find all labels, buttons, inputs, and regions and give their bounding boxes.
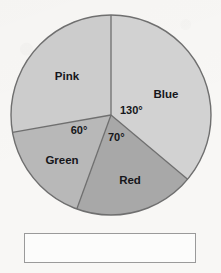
worksheet-page: Pink Blue Green Red 130° 70° 60° (0, 0, 221, 273)
pie-label-red: Red (119, 174, 141, 186)
angle-label-130: 130° (120, 104, 143, 116)
angle-label-60: 60° (71, 124, 88, 136)
pie-label-pink: Pink (55, 70, 80, 82)
pie-label-blue: Blue (154, 88, 179, 100)
angle-label-70: 70° (108, 131, 125, 143)
pie-label-green: Green (45, 154, 78, 166)
answer-box[interactable] (24, 233, 196, 263)
